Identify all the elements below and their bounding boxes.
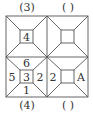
face-center-bottom-left: 3 — [23, 71, 30, 84]
inner-square-bottom-right — [61, 70, 74, 83]
face-left-bottom-right: 2 — [50, 71, 57, 84]
inner-square-top-right — [61, 30, 74, 43]
cube-net-diagram: 4 6 5 3 2 1 2 A — [0, 0, 93, 114]
face-top-bottom-left: 6 — [23, 57, 30, 70]
face-right-bottom-left: 2 — [37, 71, 44, 84]
face-bottom-bottom-left: 1 — [23, 84, 30, 97]
face-center-top-left: 4 — [23, 31, 30, 44]
face-left-bottom-left: 5 — [9, 71, 16, 84]
face-right-bottom-right: A — [76, 71, 86, 84]
